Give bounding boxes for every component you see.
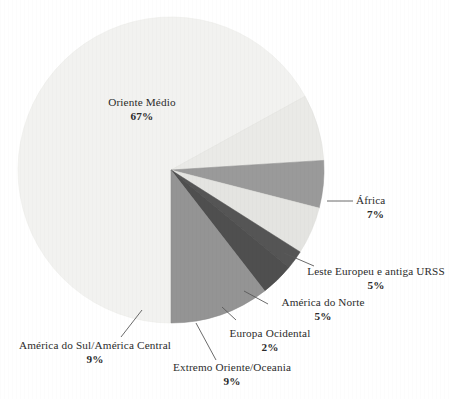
pie-chart-figure: Oriente Médio 67% África 7% Leste Europe… — [0, 0, 452, 399]
slice-label-oriente-medio-name: Oriente Médio — [82, 96, 202, 110]
slice-label-africa-name: África — [356, 194, 446, 208]
slice-label-oriente-medio: Oriente Médio 67% — [82, 96, 202, 123]
slice-label-america-norte-name: América do Norte — [268, 296, 378, 310]
slice-label-europa-ocidental-name: Europa Ocidental — [218, 327, 322, 341]
slice-label-europa-ocidental: Europa Ocidental 2% — [218, 327, 322, 354]
slice-label-america-sul-value: 9% — [14, 353, 176, 367]
slice-label-america-sul: América do Sul/América Central 9% — [14, 339, 176, 366]
slice-label-america-norte: América do Norte 5% — [268, 296, 378, 323]
slice-label-leste-europeu-name: Leste Europeu e antiga URSS — [302, 265, 450, 279]
slice-label-extremo-oriente: Extremo Oriente/Oceania 9% — [165, 361, 299, 388]
slice-label-extremo-oriente-name: Extremo Oriente/Oceania — [165, 361, 299, 375]
slice-label-oriente-medio-value: 67% — [82, 110, 202, 124]
slice-label-america-norte-value: 5% — [268, 310, 378, 324]
slice-label-leste-europeu-value: 5% — [302, 279, 450, 293]
slice-label-america-sul-name: América do Sul/América Central — [14, 339, 176, 353]
slice-label-extremo-oriente-value: 9% — [165, 375, 299, 389]
slice-label-africa-value: 7% — [356, 208, 446, 222]
slice-label-leste-europeu: Leste Europeu e antiga URSS 5% — [302, 265, 450, 292]
slice-label-europa-ocidental-value: 2% — [218, 341, 322, 355]
slice-label-africa: África 7% — [356, 194, 446, 221]
leader-line-extremo-oriente — [196, 323, 216, 360]
